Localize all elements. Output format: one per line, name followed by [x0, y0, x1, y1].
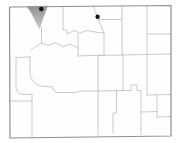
county-line-carbon-north — [98, 91, 123, 92]
map-canvas — [0, 0, 178, 143]
county-line-goshen-south — [157, 117, 171, 118]
county-line-platte-south — [141, 112, 157, 113]
record-marker-north — [95, 15, 99, 19]
county-line-natrona-north — [98, 55, 123, 56]
county-line-niobrara-south — [147, 95, 171, 96]
wyoming-state-county-map — [0, 0, 178, 143]
record-marker-northwest — [39, 7, 44, 12]
county-line-teton-south — [16, 57, 30, 58]
